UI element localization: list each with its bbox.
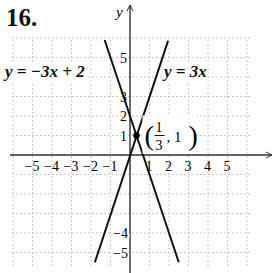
svg-text:3: 3 — [155, 138, 162, 153]
tick-labels: y−5−4−3−2−11234555332211−4−4−5−5 — [25, 4, 231, 261]
svg-text:, 1: , 1 — [166, 129, 181, 145]
svg-text:−5: −5 — [113, 246, 128, 261]
equation-label-3x: y = 3x — [163, 62, 208, 82]
equation-label-neg3x-plus-2: y = −3x + 2 — [4, 62, 86, 82]
svg-text:−1: −1 — [103, 159, 118, 174]
svg-text:1: 1 — [120, 129, 127, 144]
svg-text:4: 4 — [204, 159, 211, 174]
svg-text:−2: −2 — [83, 159, 98, 174]
svg-text:−4: −4 — [113, 226, 128, 241]
equation-text: y = 3x — [164, 62, 207, 81]
svg-text:y: y — [114, 4, 123, 20]
svg-text:2: 2 — [165, 159, 172, 174]
graph-figure: 16. y−5−4−3−2−11234555332211−4−4−5−5 (13… — [0, 0, 275, 273]
svg-text:−3: −3 — [64, 159, 79, 174]
svg-text:3: 3 — [185, 159, 192, 174]
svg-text:1: 1 — [155, 120, 162, 135]
equation-text: y = −3x + 2 — [5, 62, 85, 81]
svg-text:−4: −4 — [44, 159, 59, 174]
coordinate-plane: y−5−4−3−2−11234555332211−4−4−5−5 (13, 1) — [0, 0, 275, 273]
svg-text:5: 5 — [224, 159, 231, 174]
intersection-point: (13, 1) — [133, 116, 198, 154]
svg-text:): ) — [188, 120, 197, 151]
svg-text:−5: −5 — [25, 159, 40, 174]
svg-text:2: 2 — [120, 109, 127, 124]
svg-text:(: ( — [144, 120, 153, 151]
svg-text:5: 5 — [120, 51, 127, 66]
